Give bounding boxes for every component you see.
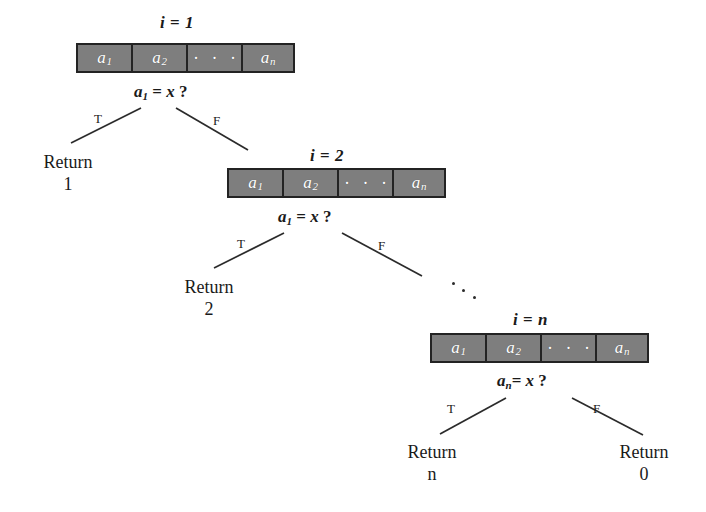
array-cell-a1: a1 — [78, 45, 133, 71]
leaf-return-0-word: Return — [620, 442, 669, 462]
edge-noden-false — [572, 398, 643, 435]
node-2-array: a1 a2 · · · an — [227, 168, 446, 198]
array-cell-a2: a2 — [487, 335, 542, 361]
leaf-return-1-word: Return — [44, 152, 93, 172]
node-2-true-label: T — [237, 236, 245, 252]
node-1-false-label: F — [213, 113, 221, 129]
edge-layer — [0, 0, 706, 512]
array-cell-a2: a2 — [133, 45, 188, 71]
node-2-iteration-label: i = 2 — [310, 146, 344, 166]
node-1-condition: a1 = x ? — [134, 82, 187, 102]
edge-node1-false — [176, 108, 248, 150]
edge-node2-true — [214, 233, 284, 268]
array-cell-an: an — [394, 170, 444, 196]
leaf-return-2-word: Return — [185, 277, 234, 297]
leaf-return-0-value: 0 — [598, 464, 690, 486]
node-n-true-label: T — [447, 401, 455, 417]
node-2-condition: a1 = x ? — [278, 207, 331, 227]
leaf-return-2: Return 2 — [163, 277, 255, 321]
node-2-false-label: F — [378, 238, 386, 254]
leaf-return-n-value: n — [386, 464, 478, 486]
array-cell-ellipsis: · · · — [339, 170, 394, 196]
array-cell-a1: a1 — [229, 170, 284, 196]
leaf-return-n: Return n — [386, 442, 478, 486]
node-n-array: a1 a2 · · · an — [430, 333, 649, 363]
leaf-return-n-word: Return — [408, 442, 457, 462]
edge-node1-true — [71, 108, 141, 143]
node-n-iteration-value: n — [538, 310, 548, 329]
leaf-return-0: Return 0 — [598, 442, 690, 486]
array-cell-an: an — [243, 45, 293, 71]
array-cell-an: an — [597, 335, 647, 361]
array-cell-ellipsis: · · · — [188, 45, 243, 71]
node-n-iteration-label: i = n — [513, 310, 548, 330]
leaf-return-1: Return 1 — [22, 152, 114, 196]
leaf-return-2-value: 2 — [163, 299, 255, 321]
node-1-array: a1 a2 · · · an — [76, 43, 295, 73]
array-cell-ellipsis: · · · — [542, 335, 597, 361]
diagram-canvas: i = 1 a1 a2 · · · an a1 = x ? T F Return… — [0, 0, 706, 512]
node-1-iteration-value: 1 — [185, 13, 194, 32]
node-1-iteration-label: i = 1 — [160, 13, 194, 33]
array-cell-a1: a1 — [432, 335, 487, 361]
node-1-true-label: T — [94, 111, 102, 127]
array-cell-a2: a2 — [284, 170, 339, 196]
leaf-return-1-value: 1 — [22, 174, 114, 196]
node-n-condition: an= x ? — [497, 371, 547, 391]
node-2-iteration-value: 2 — [335, 146, 344, 165]
node-n-false-label: F — [593, 401, 601, 417]
